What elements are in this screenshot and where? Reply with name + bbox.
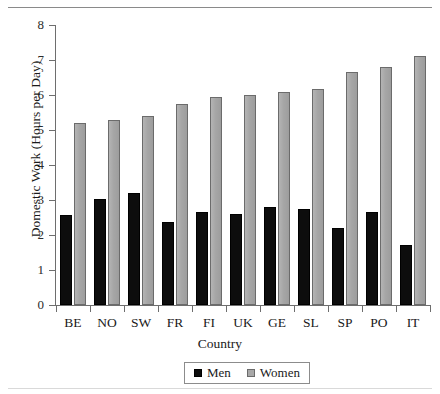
- y-tick: [49, 270, 55, 271]
- page-rule-top: [8, 7, 432, 8]
- bar-men-po: [366, 212, 379, 305]
- bar-men-ge: [264, 207, 277, 305]
- bar-women-uk: [244, 95, 257, 305]
- legend-item-men: Men: [194, 365, 231, 380]
- bar-women-sp: [346, 72, 359, 305]
- bar-women-fi: [210, 97, 223, 305]
- x-tick: [124, 306, 125, 312]
- legend-label-men: Men: [207, 365, 231, 380]
- y-tick: [49, 95, 55, 96]
- bar-men-sp: [332, 228, 345, 305]
- bar-women-sw: [142, 116, 155, 305]
- x-axis-title: Country: [0, 336, 440, 352]
- x-tick: [192, 306, 193, 312]
- y-tick: [49, 130, 55, 131]
- bar-women-po: [380, 67, 393, 305]
- bar-men-no: [94, 199, 107, 305]
- x-tick: [158, 306, 159, 312]
- bar-women-sl: [312, 89, 325, 305]
- y-tick: [49, 200, 55, 201]
- x-tick: [260, 306, 261, 312]
- y-tick: [49, 305, 55, 306]
- bar-women-be: [74, 123, 87, 305]
- x-tick: [430, 306, 431, 312]
- bar-men-fi: [196, 212, 209, 305]
- chart-legend: Men Women: [184, 362, 310, 384]
- y-tick: [49, 60, 55, 61]
- x-tick: [226, 306, 227, 312]
- bar-men-sw: [128, 193, 141, 305]
- x-tick: [362, 306, 363, 312]
- legend-label-women: Women: [260, 365, 300, 380]
- bar-men-it: [400, 245, 413, 305]
- y-tick: [49, 165, 55, 166]
- bar-men-uk: [230, 214, 243, 305]
- y-tick-label: 0: [4, 298, 44, 311]
- bar-women-it: [414, 56, 427, 305]
- x-tick: [294, 306, 295, 312]
- x-tick: [56, 306, 57, 312]
- bar-women-fr: [176, 104, 189, 305]
- bar-series-group: [56, 25, 430, 305]
- bar-men-sl: [298, 209, 311, 305]
- legend-item-women: Women: [247, 365, 300, 380]
- legend-swatch-women-icon: [247, 369, 255, 377]
- bar-women-no: [108, 120, 121, 305]
- bar-men-fr: [162, 222, 175, 305]
- x-axis-line: [55, 305, 431, 306]
- page-rule-bottom: [8, 388, 432, 389]
- bar-women-ge: [278, 92, 291, 305]
- legend-swatch-men-icon: [194, 369, 202, 377]
- x-tick: [396, 306, 397, 312]
- x-tick: [328, 306, 329, 312]
- chart-figure: 012345678 BENOSWFRFIUKGESLSPPOIT Country…: [0, 0, 440, 394]
- x-tick-label: IT: [393, 315, 433, 330]
- x-tick: [90, 306, 91, 312]
- y-axis-title: Domestic Work (Hours per Day): [28, 9, 44, 289]
- y-tick: [49, 235, 55, 236]
- y-tick: [49, 25, 55, 26]
- bar-men-be: [60, 215, 73, 305]
